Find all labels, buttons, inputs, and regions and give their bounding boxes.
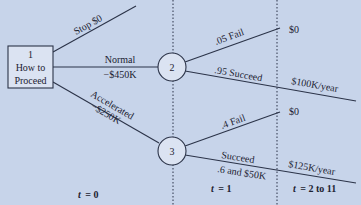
outcome-node2-fail: $0: [289, 24, 299, 35]
time-label-t2: t = 2 to 11: [293, 183, 336, 194]
time-value: = 2 to 11: [300, 183, 336, 194]
edge-stop: [53, 6, 136, 52]
label-node3-fail: .4 Fail: [219, 112, 247, 131]
outcome-node3-fail: $0: [289, 106, 299, 117]
svg-text:t = 2 to 11: t = 2 to 11: [293, 183, 336, 194]
label-node3-succeed-sub: .6 and $50K: [217, 163, 268, 182]
chance-node-2-id: 2: [170, 62, 175, 73]
time-value: = 1: [218, 183, 231, 194]
time-var: t: [211, 183, 215, 194]
svg-text:t = 0: t = 0: [78, 189, 98, 200]
decision-node-line2: Proceed: [14, 75, 46, 86]
decision-node-id: 1: [28, 49, 33, 60]
chance-node-3: 3: [158, 137, 186, 165]
decision-node-1: 1 How to Proceed: [8, 46, 53, 88]
decision-node-line1: How to: [16, 62, 46, 73]
chance-node-3-id: 3: [170, 146, 175, 157]
label-node2-fail: .05 Fail: [213, 26, 246, 47]
time-var: t: [293, 183, 297, 194]
time-label-t0: t = 0: [78, 189, 98, 200]
label-normal-cost: −$450K: [104, 69, 138, 80]
label-normal: Normal: [105, 54, 136, 65]
decision-tree-diagram: 1 How to Proceed 2 3 Stop $0 Normal −$45…: [0, 0, 361, 205]
time-label-t1: t = 1: [211, 183, 231, 194]
label-node3-succeed: Succeed: [221, 149, 256, 165]
time-var: t: [78, 189, 82, 200]
svg-text:t = 1: t = 1: [211, 183, 231, 194]
outcome-node2-succeed: $100K/year: [291, 75, 340, 94]
outcome-node3-succeed: $125K/year: [288, 158, 337, 177]
chance-node-2: 2: [158, 53, 186, 81]
time-value: = 0: [85, 189, 98, 200]
